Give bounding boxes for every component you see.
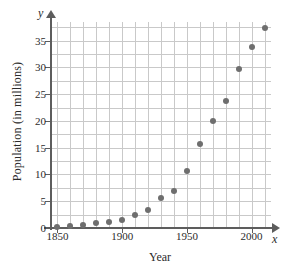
- grid-line-vertical: [187, 22, 188, 228]
- data-point: [197, 141, 203, 147]
- y-axis-tick-label: 25: [22, 89, 46, 100]
- x-axis-tick-label: 1850: [37, 231, 77, 242]
- data-point: [262, 25, 268, 31]
- x-axis-line: [44, 227, 275, 229]
- grid-line-vertical: [122, 22, 123, 228]
- grid-line-horizontal: [51, 121, 271, 122]
- grid-line-vertical: [226, 22, 227, 228]
- y-axis-symbol: y: [38, 6, 43, 21]
- grid-line-horizontal: [51, 54, 271, 55]
- grid-line-horizontal: [51, 161, 271, 162]
- data-point: [223, 98, 229, 104]
- grid-line-vertical: [174, 22, 175, 228]
- grid-line-vertical: [135, 22, 136, 228]
- x-axis-title: Year: [90, 250, 230, 265]
- grid-line-horizontal: [51, 134, 271, 135]
- data-point: [158, 195, 164, 201]
- data-point: [210, 118, 216, 124]
- grid-line-horizontal: [51, 201, 271, 202]
- data-point: [171, 188, 177, 194]
- grid-line-horizontal: [51, 81, 271, 82]
- grid-line-vertical: [265, 22, 266, 228]
- y-axis-tick-label: 10: [22, 169, 46, 180]
- grid-line-horizontal: [51, 174, 271, 175]
- x-axis-tick-label: 2000: [232, 231, 272, 242]
- grid-line-vertical: [57, 22, 58, 228]
- data-point: [249, 44, 255, 50]
- grid-line-horizontal: [51, 94, 271, 95]
- grid-line-horizontal: [51, 41, 271, 42]
- y-axis-tick-label: 15: [22, 143, 46, 154]
- grid-line-vertical: [109, 22, 110, 228]
- y-axis-arrow-icon: [46, 10, 56, 18]
- population-scatter-chart: y x Population (in millions) Year 051015…: [0, 0, 283, 271]
- data-point: [145, 207, 151, 213]
- grid-line-vertical: [213, 22, 214, 228]
- grid-line-vertical: [148, 22, 149, 228]
- x-axis-symbol: x: [272, 232, 277, 247]
- y-axis-line: [50, 16, 52, 230]
- grid-line-horizontal: [51, 108, 271, 109]
- data-point: [106, 219, 112, 225]
- y-axis-tick-label: 30: [22, 62, 46, 73]
- grid-line-vertical: [70, 22, 71, 228]
- grid-line-vertical: [83, 22, 84, 228]
- grid-line-vertical: [239, 22, 240, 228]
- y-axis-tick-label: 35: [22, 36, 46, 47]
- grid-line-vertical: [96, 22, 97, 228]
- grid-line-vertical: [200, 22, 201, 228]
- grid-line-horizontal: [51, 27, 271, 28]
- grid-line-horizontal: [51, 188, 271, 189]
- x-axis-tick-label: 1900: [102, 231, 142, 242]
- grid-line-horizontal: [51, 215, 271, 216]
- data-point: [236, 66, 242, 72]
- grid-line-horizontal: [51, 148, 271, 149]
- y-axis-tick-label: 5: [22, 196, 46, 207]
- y-axis-tick-label: 20: [22, 116, 46, 127]
- grid-line-vertical: [252, 22, 253, 228]
- x-axis-tick-label: 1950: [167, 231, 207, 242]
